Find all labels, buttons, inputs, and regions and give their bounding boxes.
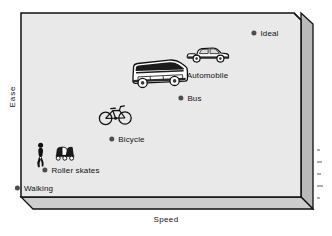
- data-point-roller-skates: Roller skates: [42, 166, 99, 175]
- bus-icon: [129, 58, 189, 95]
- data-label-bus: Bus: [187, 94, 201, 103]
- data-label-roller-skates: Roller skates: [51, 166, 99, 175]
- marker-dot-walking: [15, 186, 20, 191]
- data-point-walking: Walking: [15, 184, 53, 193]
- margin-text-fragment: [317, 173, 321, 175]
- box-right-panel: [301, 13, 313, 209]
- data-point-bicycle: Bicycle: [109, 135, 144, 144]
- pedestrian-icon: [34, 142, 48, 172]
- marker-dot-bicycle: [109, 137, 114, 142]
- margin-text-fragments: [317, 149, 331, 199]
- chart-figure: Ideal Automobile: [0, 0, 332, 236]
- margin-text-fragment: [317, 161, 322, 163]
- plot-area: Ideal Automobile: [21, 13, 301, 197]
- bicycle-icon: [98, 104, 134, 130]
- data-point-bus: Bus: [178, 94, 201, 103]
- y-axis-title: Ease: [8, 77, 17, 117]
- data-label-walking: Walking: [24, 184, 53, 193]
- data-point-ideal: Ideal: [251, 29, 278, 38]
- margin-text-fragment: [317, 149, 320, 151]
- car-icon: [186, 44, 230, 68]
- box-bottom-panel: [21, 197, 313, 209]
- marker-dot-ideal: [251, 31, 256, 36]
- data-label-ideal: Ideal: [260, 29, 278, 38]
- margin-text-fragment: [317, 185, 323, 187]
- marker-dot-bus: [178, 96, 183, 101]
- margin-text-fragment: [317, 197, 320, 199]
- x-axis-title: Speed: [0, 215, 332, 224]
- data-label-bicycle: Bicycle: [118, 135, 144, 144]
- data-label-automobile: Automobile: [187, 71, 229, 80]
- roller-skates-icon: [54, 145, 76, 165]
